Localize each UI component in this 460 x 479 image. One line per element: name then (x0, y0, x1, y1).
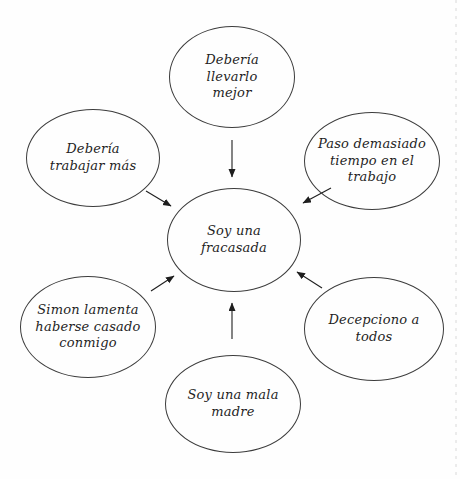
node-deberia-llevarlo-mejor: Debería llevarlo mejor (169, 26, 295, 128)
scan-edge-artifact (455, 0, 457, 479)
node-label: Debería llevarlo mejor (199, 52, 265, 103)
node-soy-una-mala-madre: Soy una mala madre (165, 355, 301, 453)
arrow-simon-lamenta-to-soy-una-fracasada (151, 276, 174, 291)
node-label: Soy una fracasada (195, 223, 273, 257)
node-label: Soy una mala madre (181, 387, 284, 421)
diagram-canvas: Debería llevarlo mejor Debería trabajar … (0, 0, 460, 479)
arrow-deberia-trabajar-mas-to-soy-una-fracasada (146, 191, 171, 206)
node-simon-lamenta: Simon lamenta haberse casado conmigo (20, 276, 156, 378)
node-paso-demasiado-tiempo: Paso demasiado tiempo en el trabajo (304, 112, 440, 210)
node-label: Simon lamenta haberse casado conmigo (29, 302, 146, 353)
node-deberia-trabajar-mas: Debería trabajar más (26, 109, 160, 207)
node-label: Debería trabajar más (44, 141, 143, 175)
node-label: Paso demasiado tiempo en el trabajo (312, 136, 432, 187)
node-label: Decepciono a todos (322, 312, 425, 346)
node-decepciono-a-todos: Decepciono a todos (304, 277, 444, 381)
arrow-decepciono-a-todos-to-soy-una-fracasada (297, 272, 322, 288)
node-soy-una-fracasada: Soy una fracasada (167, 188, 301, 292)
